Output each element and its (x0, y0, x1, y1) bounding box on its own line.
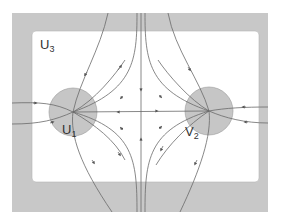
phase-portrait-diagram: U3 U1 V2 (0, 0, 281, 221)
